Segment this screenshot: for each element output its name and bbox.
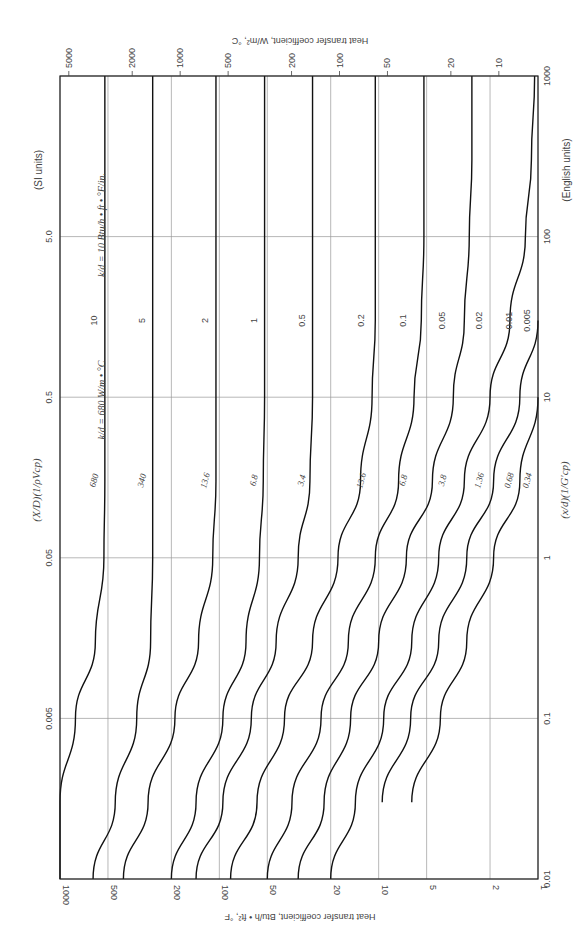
curve-label-english: 0.2 [356, 314, 366, 327]
tick-label-h-si: 500 [223, 53, 233, 68]
curve-label-si: 3.8 [436, 473, 449, 488]
tick-label-h-english: 1000 [61, 885, 71, 905]
tick-label-h-si: 20 [446, 58, 456, 68]
curve-label-si: 6.8 [247, 473, 260, 487]
tick-label-h-si: 100 [335, 53, 345, 68]
curve-label-english: 0.005 [522, 309, 532, 332]
si-units-label: (SI units) [33, 150, 44, 190]
curve-label-english: 0.1 [398, 314, 408, 327]
tick-label-h-english: 200 [172, 885, 182, 900]
english-units-label: (English units) [561, 138, 572, 201]
curve-label-si: 13.6 [354, 471, 368, 489]
tick-label-x-english: 1 [542, 555, 552, 560]
tick-label-h-si: 5000 [64, 48, 74, 68]
tick-label-h-english: 50 [268, 885, 278, 895]
tick-label-h-si: 200 [287, 53, 297, 68]
curve-label-english: 10 [89, 316, 99, 326]
curve-label-si: 6.8 [397, 473, 410, 487]
curve-label-english: 0.01 [504, 312, 514, 330]
tick-label-x-si: 0.005 [44, 707, 54, 730]
tick-label-x-si: 0.05 [44, 549, 54, 567]
tick-label-h-english: 100 [220, 885, 230, 900]
kd-english-label: k/d = 10 Btu/h • ft • °F/in. [96, 173, 107, 277]
tick-label-x-si: 0.5 [44, 391, 54, 404]
tick-label-x-english: 0.01 [542, 870, 552, 888]
tick-label-x-english: 10 [542, 392, 552, 402]
tick-label-h-si: 10 [494, 58, 504, 68]
curve-label-si: 340 [135, 472, 149, 489]
curve-label-si: 0.68 [502, 471, 516, 489]
curve [382, 321, 538, 803]
tick-label-h-si: 1000 [175, 48, 185, 68]
tick-label-x-english: 1000 [542, 66, 552, 86]
tick-label-h-si: 2000 [127, 48, 137, 68]
curve-label-si: 3.4 [295, 473, 308, 488]
tick-label-h-english: 5 [428, 885, 438, 890]
tick-label-h-english: 10 [380, 885, 390, 895]
tick-label-x-si: 5.0 [44, 230, 54, 243]
curve-label-english: 5 [137, 318, 147, 323]
y-si-title: Heat transfer coefficient, W/m², °C [231, 36, 368, 46]
tick-label-x-english: 0.1 [542, 712, 552, 725]
tick-label-h-si: 50 [382, 58, 392, 68]
tick-label-h-english: 2 [491, 885, 501, 890]
curve-label-si: 0.34 [520, 471, 534, 489]
curve-label-english: 0.02 [474, 312, 484, 330]
curve-label-si: 680 [87, 472, 100, 488]
x-si-formula: (X/D)(1/ρVcp) [30, 458, 43, 522]
heat-transfer-chart: 1000500200100502010521500020001000500200… [0, 0, 583, 935]
curve-label-english: 2 [200, 318, 210, 323]
curve-label-english: 0.5 [297, 314, 307, 327]
curve-label-english: 1 [249, 318, 259, 323]
curve [412, 397, 538, 802]
curve-label-english: 0.05 [437, 312, 447, 330]
x-english-formula: (x/d)(1/G′cp) [558, 461, 571, 519]
curve-label-si: 13.6 [198, 471, 212, 489]
y-english-title: Heat transfer coefficient, Btu/h • ft², … [224, 912, 376, 922]
tick-label-h-english: 20 [332, 885, 342, 895]
tick-label-x-english: 100 [542, 229, 552, 244]
kd-si-label: k/d = 680 W/m • °C [96, 360, 107, 439]
tick-label-h-english: 500 [109, 885, 119, 900]
curve-label-si: 1.36 [472, 471, 486, 489]
